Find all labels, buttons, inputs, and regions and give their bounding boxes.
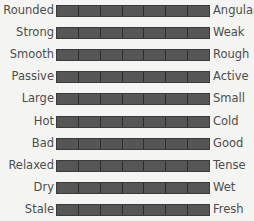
rating-segment[interactable] bbox=[79, 183, 101, 193]
rating-segment[interactable] bbox=[166, 50, 188, 60]
rating-segment[interactable] bbox=[101, 72, 123, 82]
rating-segment[interactable] bbox=[144, 117, 166, 127]
rating-segment[interactable] bbox=[166, 117, 188, 127]
rating-segment[interactable] bbox=[144, 139, 166, 149]
rating-segment[interactable] bbox=[123, 139, 145, 149]
scale-row: BadGood bbox=[0, 137, 254, 151]
rating-segment[interactable] bbox=[101, 183, 123, 193]
right-anchor-label: Cold bbox=[213, 114, 239, 128]
rating-bar bbox=[56, 71, 210, 83]
rating-segment[interactable] bbox=[166, 161, 188, 171]
rating-segment[interactable] bbox=[79, 94, 101, 104]
rating-segment[interactable] bbox=[123, 183, 145, 193]
right-anchor-label: Fresh bbox=[213, 202, 244, 216]
rating-bar bbox=[56, 204, 210, 216]
rating-segment[interactable] bbox=[166, 94, 188, 104]
rating-segment[interactable] bbox=[188, 28, 209, 38]
rating-segment[interactable] bbox=[123, 50, 145, 60]
rating-segment[interactable] bbox=[188, 72, 209, 82]
rating-segment[interactable] bbox=[101, 161, 123, 171]
right-anchor-label: Angular bbox=[213, 3, 254, 17]
right-anchor-label: Wet bbox=[213, 180, 235, 194]
right-anchor-label: Small bbox=[213, 91, 245, 105]
right-anchor-label: Good bbox=[213, 136, 243, 150]
rating-segment[interactable] bbox=[188, 50, 209, 60]
rating-segment[interactable] bbox=[188, 117, 209, 127]
scale-row: RoundedAngular bbox=[0, 4, 254, 18]
rating-segment[interactable] bbox=[79, 28, 101, 38]
rating-segment[interactable] bbox=[144, 6, 166, 16]
right-anchor-label: Active bbox=[213, 69, 249, 83]
rating-segment[interactable] bbox=[57, 205, 79, 215]
left-anchor-label: Strong bbox=[16, 25, 54, 39]
rating-segment[interactable] bbox=[144, 205, 166, 215]
rating-segment[interactable] bbox=[57, 6, 79, 16]
rating-segment[interactable] bbox=[57, 183, 79, 193]
rating-segment[interactable] bbox=[79, 205, 101, 215]
left-anchor-label: Stale bbox=[25, 202, 54, 216]
rating-segment[interactable] bbox=[166, 6, 188, 16]
rating-segment[interactable] bbox=[101, 6, 123, 16]
rating-segment[interactable] bbox=[144, 183, 166, 193]
rating-bar bbox=[56, 5, 210, 17]
rating-segment[interactable] bbox=[101, 94, 123, 104]
scale-row: HotCold bbox=[0, 115, 254, 129]
rating-segment[interactable] bbox=[79, 161, 101, 171]
rating-bar bbox=[56, 182, 210, 194]
rating-segment[interactable] bbox=[57, 161, 79, 171]
rating-segment[interactable] bbox=[101, 139, 123, 149]
rating-segment[interactable] bbox=[166, 183, 188, 193]
rating-segment[interactable] bbox=[144, 28, 166, 38]
rating-segment[interactable] bbox=[188, 6, 209, 16]
rating-segment[interactable] bbox=[166, 72, 188, 82]
rating-segment[interactable] bbox=[57, 50, 79, 60]
rating-segment[interactable] bbox=[101, 50, 123, 60]
left-anchor-label: Large bbox=[22, 91, 54, 105]
rating-segment[interactable] bbox=[123, 161, 145, 171]
rating-segment[interactable] bbox=[166, 28, 188, 38]
scale-row: StaleFresh bbox=[0, 203, 254, 217]
left-anchor-label: Relaxed bbox=[8, 158, 54, 172]
rating-segment[interactable] bbox=[123, 28, 145, 38]
rating-segment[interactable] bbox=[79, 117, 101, 127]
rating-segment[interactable] bbox=[144, 161, 166, 171]
right-anchor-label: Weak bbox=[213, 25, 244, 39]
rating-segment[interactable] bbox=[144, 94, 166, 104]
rating-segment[interactable] bbox=[188, 139, 209, 149]
rating-segment[interactable] bbox=[57, 94, 79, 104]
rating-segment[interactable] bbox=[123, 117, 145, 127]
rating-segment[interactable] bbox=[101, 205, 123, 215]
rating-segment[interactable] bbox=[79, 72, 101, 82]
scale-row: RelaxedTense bbox=[0, 159, 254, 173]
rating-bar bbox=[56, 49, 210, 61]
rating-segment[interactable] bbox=[188, 94, 209, 104]
rating-segment[interactable] bbox=[101, 28, 123, 38]
rating-segment[interactable] bbox=[188, 205, 209, 215]
rating-segment[interactable] bbox=[166, 139, 188, 149]
rating-segment[interactable] bbox=[123, 72, 145, 82]
rating-segment[interactable] bbox=[79, 6, 101, 16]
rating-segment[interactable] bbox=[123, 94, 145, 104]
right-anchor-label: Rough bbox=[213, 47, 249, 61]
left-anchor-label: Hot bbox=[34, 114, 54, 128]
rating-segment[interactable] bbox=[101, 117, 123, 127]
scale-row: StrongWeak bbox=[0, 26, 254, 40]
rating-segment[interactable] bbox=[57, 117, 79, 127]
rating-segment[interactable] bbox=[166, 205, 188, 215]
rating-bar bbox=[56, 27, 210, 39]
rating-segment[interactable] bbox=[79, 139, 101, 149]
rating-segment[interactable] bbox=[123, 205, 145, 215]
rating-segment[interactable] bbox=[188, 161, 209, 171]
scale-row: DryWet bbox=[0, 181, 254, 195]
rating-segment[interactable] bbox=[57, 139, 79, 149]
rating-segment[interactable] bbox=[144, 72, 166, 82]
rating-segment[interactable] bbox=[57, 28, 79, 38]
left-anchor-label: Smooth bbox=[10, 47, 54, 61]
rating-segment[interactable] bbox=[188, 183, 209, 193]
rating-segment[interactable] bbox=[79, 50, 101, 60]
rating-segment[interactable] bbox=[123, 6, 145, 16]
rating-segment[interactable] bbox=[144, 50, 166, 60]
rating-bar bbox=[56, 116, 210, 128]
rating-segment[interactable] bbox=[57, 72, 79, 82]
left-anchor-label: Bad bbox=[32, 136, 54, 150]
